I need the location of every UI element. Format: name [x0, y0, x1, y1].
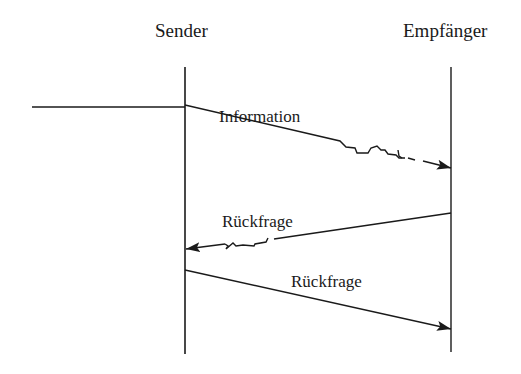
message-information-label: Information	[219, 107, 300, 127]
participant-sender-label: Sender	[155, 20, 208, 42]
message-rueckfrage-back-label: Rückfrage	[222, 212, 293, 232]
participant-empfaenger-label: Empfänger	[403, 20, 487, 42]
diagram-canvas	[0, 0, 521, 374]
message-rueckfrage-forward-label: Rückfrage	[291, 272, 362, 292]
sequence-diagram: Sender Empfänger Information Rückfrage R…	[0, 0, 521, 374]
